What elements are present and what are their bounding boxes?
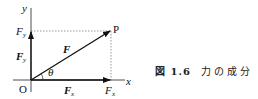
fy-tick-label: F y <box>15 25 27 39</box>
figure-number: 図 1.6 <box>155 66 191 77</box>
force-vector-F <box>31 31 110 80</box>
svg-text:y: y <box>22 31 27 39</box>
fx-vector-label: F x <box>63 84 75 98</box>
force-label: F <box>62 43 71 55</box>
figure-caption: 図 1.6 力の成分 <box>155 63 253 78</box>
figure-title: 力の成分 <box>201 66 253 77</box>
svg-text:x: x <box>70 90 75 98</box>
fx-tick-label: F x <box>104 84 116 98</box>
angle-arc <box>41 74 43 80</box>
svg-text:x: x <box>111 90 116 98</box>
x-axis-label: x <box>125 75 131 87</box>
point-label: P <box>113 23 119 35</box>
svg-text:F: F <box>104 84 112 96</box>
svg-text:y: y <box>22 56 27 64</box>
force-components-diagram: y x O P F θ F y F y F x F x <box>0 0 258 99</box>
svg-text:F: F <box>15 25 23 37</box>
angle-label: θ <box>48 66 54 78</box>
origin-label: O <box>19 83 27 95</box>
y-axis-label: y <box>21 2 27 14</box>
fy-vector-label: F y <box>15 50 27 64</box>
